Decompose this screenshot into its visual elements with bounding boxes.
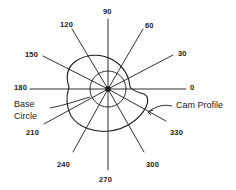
angle-label-240: 240 — [57, 161, 70, 169]
base-circle-annotation-line1: Base — [14, 98, 37, 110]
center-hub-dot — [105, 86, 110, 91]
angle-label-210: 210 — [26, 129, 39, 137]
angle-label-90: 90 — [103, 8, 112, 16]
polar-diagram-canvas — [0, 0, 236, 190]
angle-label-30: 30 — [178, 50, 187, 58]
angle-label-300: 300 — [146, 161, 159, 169]
base-circle-annotation-line2: Circle — [14, 110, 37, 122]
angle-label-330: 330 — [170, 129, 183, 137]
cam-profile-curve — [67, 55, 148, 131]
cam-profile-diagram: 0 30 60 90 120 150 180 210 240 270 300 3… — [0, 0, 236, 190]
angle-label-60: 60 — [145, 22, 154, 30]
angle-label-270: 270 — [99, 176, 112, 184]
angle-label-150: 150 — [25, 51, 38, 59]
radial-spokes — [30, 19, 186, 170]
base-circle-annotation: Base Circle — [14, 98, 37, 122]
angle-label-120: 120 — [60, 21, 73, 29]
angle-label-0: 0 — [190, 84, 194, 92]
angle-label-180: 180 — [14, 84, 27, 92]
cam-profile-annotation: Cam Profile — [176, 100, 223, 111]
